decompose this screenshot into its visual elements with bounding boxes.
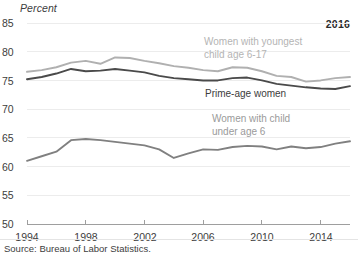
y-tick-label-65: 65 bbox=[2, 133, 22, 144]
series-line-1 bbox=[27, 69, 350, 89]
y-tick-label-50: 50 bbox=[2, 219, 22, 230]
x-tick-label-2010: 2010 bbox=[250, 231, 273, 243]
y-tick-label-55: 55 bbox=[2, 190, 22, 201]
y-tick-label-60: 60 bbox=[2, 162, 22, 173]
source-note: Source: Bureau of Labor Statistics. bbox=[4, 243, 151, 254]
series-label-women-child-under-6: Women with child under age 6 bbox=[212, 113, 290, 138]
series-label-line2: child age 6-17 bbox=[204, 49, 302, 62]
x-tick-label-2006: 2006 bbox=[191, 231, 214, 243]
y-tick-label-80: 80 bbox=[2, 47, 22, 58]
x-tick-marks bbox=[27, 220, 321, 224]
series-label-line2: under age 6 bbox=[212, 126, 290, 139]
series-label-prime-age-women: Prime-age women bbox=[205, 88, 286, 101]
series-label-line1: Prime-age women bbox=[205, 88, 286, 101]
series-label-line1: Women with youngest bbox=[204, 36, 302, 49]
series-label-line1: Women with child bbox=[212, 113, 290, 126]
y-axis-title: Percent bbox=[20, 2, 57, 14]
chart-container: Percent 2016 85 80 75 70 65 60 55 50 199… bbox=[0, 0, 358, 258]
series-label-women-youngest-child-6-17: Women with youngest child age 6-17 bbox=[204, 36, 302, 61]
x-tick-label-2002: 2002 bbox=[133, 231, 156, 243]
x-tick-label-1994: 1994 bbox=[15, 231, 38, 243]
series-line-2 bbox=[27, 139, 350, 161]
y-tick-label-75: 75 bbox=[2, 76, 22, 87]
y-tick-label-85: 85 bbox=[2, 18, 22, 29]
source-divider bbox=[0, 239, 358, 240]
y-tick-label-70: 70 bbox=[2, 104, 22, 115]
x-tick-label-2014: 2014 bbox=[309, 231, 332, 243]
x-tick-label-1998: 1998 bbox=[74, 231, 97, 243]
